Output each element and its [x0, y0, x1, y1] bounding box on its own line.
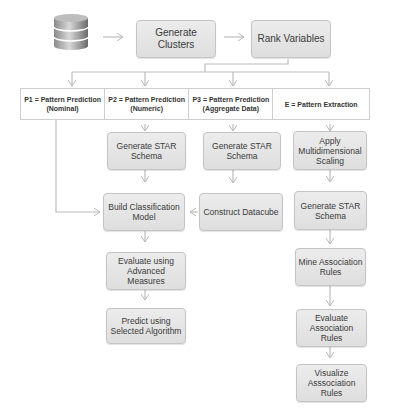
- p2-generate-star-schema: Generate STAR Schema: [107, 132, 186, 170]
- predict-selected-algorithm: Predict using Selected Algorithm: [106, 308, 186, 344]
- construct-datacube: Construct Datacube: [199, 193, 283, 231]
- rank-variables-box: Rank Variables: [251, 20, 331, 58]
- header-p3: P3 = Pattern Prediction (Aggregate Data): [189, 89, 273, 119]
- evaluate-association-rules: Evaluate Association Rules: [296, 309, 367, 347]
- generate-clusters-box: Generate Clusters: [136, 20, 216, 58]
- apply-multidimensional-scaling: Apply Multidimensional Scaling: [293, 131, 367, 170]
- p3-generate-star-schema: Generate STAR Schema: [203, 132, 281, 170]
- e-generate-star-schema: Generate STAR Schema: [294, 191, 367, 230]
- pattern-columns-header: P1 = Pattern Prediction (Nominal) P2 = P…: [20, 88, 370, 120]
- header-e: E = Pattern Extraction: [273, 89, 369, 119]
- database-icon: [53, 13, 89, 51]
- header-p1: P1 = Pattern Prediction (Nominal): [21, 89, 105, 119]
- mine-association-rules: Mine Association Rules: [295, 248, 366, 286]
- evaluate-advanced-measures: Evaluate using Advanced Measures: [106, 252, 186, 290]
- build-classification-model: Build Classification Model: [103, 193, 185, 231]
- visualize-association-rules: Visualize Asssociation Rules: [296, 364, 367, 402]
- header-p2: P2 = Pattern Prediction (Numeric): [105, 89, 189, 119]
